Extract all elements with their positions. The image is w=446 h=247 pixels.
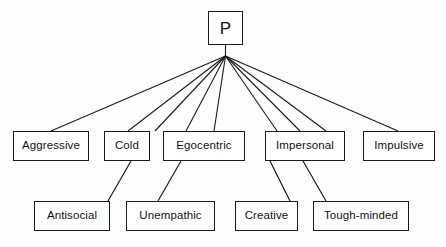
node-label-cold: Cold — [115, 140, 139, 152]
edge-impersonal-creative — [270, 161, 290, 201]
apex-edge-group — [51, 45, 398, 131]
node-unempathic[interactable]: Unempathic — [126, 201, 215, 231]
node-label-aggressive: Aggressive — [22, 140, 80, 152]
node-egocentric[interactable]: Egocentric — [163, 131, 245, 161]
node-creative[interactable]: Creative — [235, 201, 298, 231]
level-edge-group — [108, 161, 326, 201]
edge-egocentric-unempathic — [158, 161, 181, 201]
node-label-antisocial: Antisocial — [47, 210, 97, 222]
node-impulsive[interactable]: Impulsive — [363, 131, 435, 161]
node-cold[interactable]: Cold — [104, 131, 150, 161]
node-label-unempathic: Unempathic — [139, 210, 201, 222]
node-label-root: P — [220, 20, 231, 37]
node-impersonal[interactable]: Impersonal — [265, 131, 345, 161]
edge-apex-aggressive — [51, 56, 226, 131]
node-label-impulsive: Impulsive — [374, 140, 423, 152]
node-label-egocentric: Egocentric — [176, 140, 231, 152]
edge-impersonal-toughminded — [303, 161, 326, 201]
node-label-impersonal: Impersonal — [276, 140, 334, 152]
edge-apex-cold — [128, 56, 226, 131]
node-antisocial[interactable]: Antisocial — [34, 201, 110, 231]
edge-cold-antisocial — [108, 161, 131, 201]
diagram-canvas: P AggressiveColdEgocentricImpersonalImpu… — [0, 0, 446, 247]
node-tough-minded[interactable]: Tough-minded — [313, 201, 409, 231]
node-label-creative: Creative — [245, 210, 289, 222]
edge-apex-impersonal-b — [226, 56, 301, 131]
node-label-tough-minded: Tough-minded — [324, 210, 398, 222]
edge-apex-antisocial — [155, 56, 226, 131]
node-root-p[interactable]: P — [208, 11, 243, 45]
node-aggressive[interactable]: Aggressive — [13, 131, 89, 161]
